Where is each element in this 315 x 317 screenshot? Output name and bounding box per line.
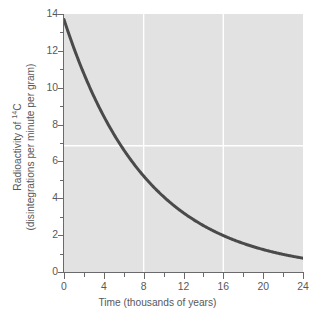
x-tick-minor xyxy=(243,273,244,277)
x-tick-minor xyxy=(203,273,204,277)
x-tick-major xyxy=(184,273,185,279)
x-tick-major xyxy=(64,273,65,279)
x-tick-group: 0 4 8 12 16 20 24 xyxy=(0,0,315,317)
x-tick-major xyxy=(144,273,145,279)
x-tick-label: 20 xyxy=(248,282,278,292)
x-tick-major xyxy=(303,273,304,279)
x-tick-label: 8 xyxy=(129,282,159,292)
x-axis-title: Time (thousands of years) xyxy=(0,297,315,308)
x-tick-minor xyxy=(164,273,165,277)
x-tick-label: 0 xyxy=(49,282,79,292)
x-tick-minor xyxy=(124,273,125,277)
x-tick-major xyxy=(263,273,264,279)
x-tick-label: 24 xyxy=(288,282,315,292)
x-tick-minor xyxy=(84,273,85,277)
x-tick-label: 12 xyxy=(169,282,199,292)
x-tick-minor xyxy=(283,273,284,277)
x-tick-major xyxy=(223,273,224,279)
x-tick-major xyxy=(104,273,105,279)
x-tick-label: 4 xyxy=(89,282,119,292)
radiocarbon-decay-chart: Radioactivity of 14C (disintegrations pe… xyxy=(0,0,315,317)
x-tick-label: 16 xyxy=(208,282,238,292)
